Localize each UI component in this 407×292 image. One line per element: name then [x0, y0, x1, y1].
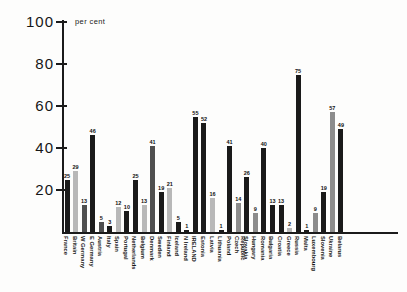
y-tick-label: 60 [6, 99, 54, 113]
category-label: Luxembourg [311, 236, 317, 271]
category-label: W Germany [80, 236, 86, 268]
bar-value-label: 13 [77, 198, 91, 204]
category-label: Iceland [174, 236, 180, 256]
bar-value-label: 13 [137, 198, 151, 204]
bar-value-label: 49 [334, 122, 348, 128]
y-tick-mark [56, 63, 67, 65]
bar-value-label: 57 [325, 105, 339, 111]
x-axis-line [62, 232, 398, 234]
bar [159, 192, 164, 232]
y-tick-label: 20 [6, 183, 54, 197]
bar [82, 205, 87, 232]
bar-chart-figure: per cent 10080604020 25France29Britain13… [0, 0, 407, 292]
bar-value-label: 14 [231, 196, 245, 202]
category-label: Slovakia [243, 236, 249, 260]
category-label: E Germany [89, 236, 95, 267]
bar-value-label: 75 [291, 68, 305, 74]
category-label: Lithuania [217, 236, 223, 262]
bar-value-label: 25 [60, 173, 74, 179]
category-label: Greece [286, 236, 292, 256]
y-tick-mark [56, 21, 67, 23]
bar [65, 180, 70, 233]
bar [313, 213, 318, 232]
bar [330, 112, 335, 232]
category-label: Britain [72, 236, 78, 254]
bar [107, 226, 112, 232]
bar-value-label: 10 [120, 204, 134, 210]
category-label: Spain [114, 236, 120, 252]
y-axis-unit-label: per cent [75, 17, 105, 26]
y-tick-label: 100 [6, 15, 54, 29]
bar-value-label: 21 [163, 181, 177, 187]
bar [184, 230, 189, 232]
category-label: Malta [303, 236, 309, 251]
category-label: N Ireland [183, 236, 189, 261]
category-label: Finland [166, 236, 172, 257]
bar [219, 230, 224, 232]
bar [116, 207, 121, 232]
category-label: Romania [260, 236, 266, 260]
category-label: Latvia [209, 236, 215, 253]
bar [133, 180, 138, 233]
bar-value-label: 26 [240, 170, 254, 176]
category-label: Denmark [149, 236, 155, 261]
bar [270, 205, 275, 232]
bar [244, 177, 249, 232]
category-label: Poland [226, 236, 232, 255]
bar [287, 228, 292, 232]
bar [124, 211, 129, 232]
y-tick-label: 40 [6, 141, 54, 155]
bar [296, 75, 301, 233]
bar [253, 213, 258, 232]
bar-value-label: 19 [317, 185, 331, 191]
bar [261, 148, 266, 232]
bar-value-label: 5 [171, 215, 185, 221]
y-tick-mark [56, 147, 67, 149]
bar-value-label: 1 [300, 223, 314, 229]
category-label: Belarus [337, 236, 343, 257]
category-label: Italy [106, 236, 112, 248]
category-label: Ukraine [328, 236, 334, 257]
bar-value-label: 9 [248, 206, 262, 212]
bar-value-label: 29 [69, 164, 83, 170]
bar-value-label: 55 [188, 110, 202, 116]
category-label: Netherlands [131, 236, 137, 270]
bar-value-label: 16 [206, 191, 220, 197]
category-label: Estonia [200, 236, 206, 257]
category-label: France [63, 236, 69, 255]
y-tick-label: 80 [6, 57, 54, 71]
bar-value-label: 25 [128, 173, 142, 179]
category-label: Russia [294, 236, 300, 255]
category-label: Croatia [277, 236, 283, 256]
bar-value-label: 41 [146, 139, 160, 145]
bar [279, 205, 284, 232]
bar [338, 129, 343, 232]
bar-value-label: 46 [86, 128, 100, 134]
bar-value-label: 52 [197, 116, 211, 122]
category-label: IRELAND [191, 236, 197, 262]
bar [236, 203, 241, 232]
category-label: Sweden [157, 236, 163, 258]
category-label: Austria [97, 236, 103, 256]
bar-value-label: 9 [308, 206, 322, 212]
y-tick-mark [56, 105, 67, 107]
bar [321, 192, 326, 232]
bar [142, 205, 147, 232]
category-label: Portugal [123, 236, 129, 260]
bar-value-label: 3 [103, 219, 117, 225]
category-label: Bulgaria [268, 236, 274, 259]
category-label: Belgium [140, 236, 146, 259]
bar [193, 117, 198, 233]
bar-value-label: 2 [283, 221, 297, 227]
bar-value-label: 1 [214, 223, 228, 229]
bar [201, 123, 206, 232]
category-label: Hungary [251, 236, 257, 260]
bar [227, 146, 232, 232]
bar-value-label: 41 [223, 139, 237, 145]
bar-value-label: 40 [257, 141, 271, 147]
bar [304, 230, 309, 232]
bar-value-label: 13 [274, 198, 288, 204]
bar [167, 188, 172, 232]
bar-value-label: 1 [180, 223, 194, 229]
category-label: Slovenia [320, 236, 326, 260]
